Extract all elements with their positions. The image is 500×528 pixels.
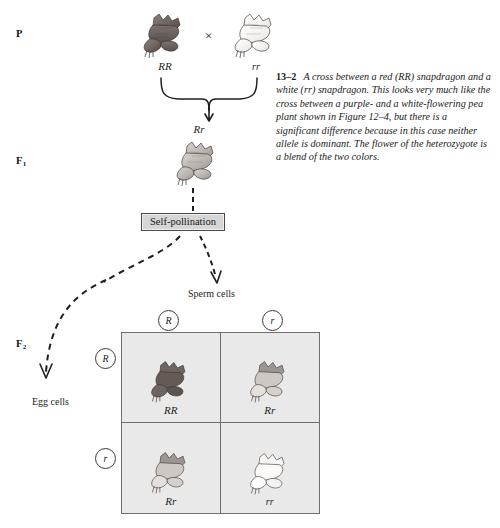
punnett-genotype-label: Rr xyxy=(165,495,176,507)
punnett-genotype-label: rr xyxy=(266,496,274,507)
generation-label-p: P xyxy=(16,28,23,39)
punnett-cell-Rr-bottom[interactable]: Rr xyxy=(122,423,221,513)
generation-label-f2-sub: 2 xyxy=(23,343,27,351)
egg-allele-circle-R: R xyxy=(95,348,116,369)
parent-flower-red xyxy=(137,12,193,58)
f1-to-selfpollination-connector xyxy=(182,188,222,214)
snapdragon-red-icon xyxy=(137,12,193,58)
f1-flower-pink xyxy=(170,138,226,188)
sperm-cells-label: Sperm cells xyxy=(188,288,235,299)
punnett-cell-rr[interactable]: rr xyxy=(221,423,320,513)
egg-cells-connector xyxy=(14,278,124,388)
parent-join-brace xyxy=(130,76,290,126)
generation-label-f2: F2 xyxy=(16,338,26,349)
parent-left-genotype: RR xyxy=(135,60,195,72)
figure-caption: 13–2A cross between a red (RR) snapdrago… xyxy=(276,70,492,164)
egg-cells-label: Egg cells xyxy=(32,396,69,407)
snapdragon-white-icon xyxy=(244,450,296,496)
generation-label-f2-text: F xyxy=(16,338,23,349)
figure-caption-text: A cross between a red (RR) snapdragon an… xyxy=(276,71,491,162)
f1-offspring-genotype: Rr xyxy=(179,123,219,135)
snapdragon-pink-icon xyxy=(170,138,226,188)
parent-flower-white xyxy=(228,12,284,58)
sperm-allele-circle-R: R xyxy=(158,310,179,331)
cross-symbol: × xyxy=(205,28,212,44)
generation-label-f1-sub: 1 xyxy=(23,160,27,168)
generation-label-f1-text: F xyxy=(16,155,23,166)
generation-label-f1: F1 xyxy=(16,155,26,166)
egg-allele-circle-r: r xyxy=(95,448,116,469)
generation-label-p-text: P xyxy=(16,28,23,39)
punnett-cell-Rr-top[interactable]: Rr xyxy=(221,333,320,423)
punnett-square: RR Rr Rr rr xyxy=(121,332,320,514)
punnett-genotype-label: Rr xyxy=(264,404,275,416)
punnett-genotype-label: RR xyxy=(164,404,177,416)
snapdragon-white-icon xyxy=(228,12,284,58)
punnett-cell-RR[interactable]: RR xyxy=(122,333,221,423)
sperm-allele-circle-r: r xyxy=(262,310,283,331)
figure-number: 13–2 xyxy=(276,71,296,82)
snapdragon-red-icon xyxy=(145,358,197,404)
snapdragon-pink-icon xyxy=(145,449,197,495)
snapdragon-pink-icon xyxy=(244,358,296,404)
self-pollination-box[interactable]: Self-pollination xyxy=(141,213,225,231)
